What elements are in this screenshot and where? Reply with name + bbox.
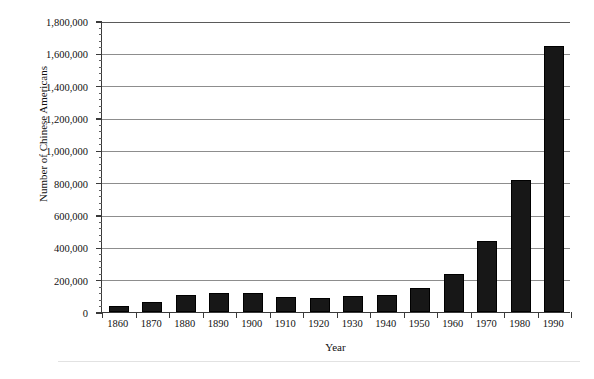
bar xyxy=(444,274,464,312)
y-tick-label: 1,400,000 xyxy=(46,81,88,92)
x-major-tick xyxy=(571,312,572,318)
scan-artifact-line xyxy=(58,361,580,362)
y-tick-label: 400,000 xyxy=(54,243,88,254)
x-tick-label: 1980 xyxy=(509,318,530,329)
x-tick-label: 1960 xyxy=(442,318,463,329)
chart-figure: Number of Chinese Americans 0200,000400,… xyxy=(0,0,594,379)
bar xyxy=(511,180,531,312)
bar xyxy=(343,296,363,312)
bar xyxy=(276,297,296,312)
y-tick-label: 200,000 xyxy=(54,275,88,286)
y-tick-label: 0 xyxy=(83,308,88,319)
y-tick-label: 800,000 xyxy=(54,178,88,189)
x-tick-label: 1950 xyxy=(409,318,430,329)
x-tick-label: 1970 xyxy=(476,318,497,329)
bar xyxy=(243,293,263,312)
bar xyxy=(142,302,162,312)
bar xyxy=(410,288,430,312)
x-tick-label: 1990 xyxy=(543,318,564,329)
y-tick-label: 1,600,000 xyxy=(46,49,88,60)
x-tick-label: 1900 xyxy=(241,318,262,329)
x-tick-label: 1930 xyxy=(342,318,363,329)
bar xyxy=(544,46,564,312)
x-tick-label: 1890 xyxy=(208,318,229,329)
y-axis-labels: 0200,000400,000600,000800,0001,000,0001,… xyxy=(0,0,96,291)
x-tick-label: 1870 xyxy=(141,318,162,329)
x-tick-label: 1880 xyxy=(174,318,195,329)
y-tick-label: 1,800,000 xyxy=(46,17,88,28)
x-tick-label: 1910 xyxy=(275,318,296,329)
y-tick-label: 1,000,000 xyxy=(46,146,88,157)
x-tick-label: 1920 xyxy=(308,318,329,329)
bar xyxy=(109,306,129,312)
x-tick-label: 1860 xyxy=(107,318,128,329)
bar xyxy=(477,241,497,312)
y-tick-label: 1,200,000 xyxy=(46,114,88,125)
bar xyxy=(209,293,229,312)
x-tick-label: 1940 xyxy=(375,318,396,329)
bar xyxy=(310,298,330,312)
y-tick-label: 600,000 xyxy=(54,211,88,222)
plot-area xyxy=(101,22,570,313)
x-axis-labels: 1860187018801890190019101920193019401950… xyxy=(101,316,570,334)
bar xyxy=(176,295,196,312)
bar xyxy=(377,295,397,312)
x-axis-title: Year xyxy=(101,341,570,353)
bar-series xyxy=(102,22,570,312)
